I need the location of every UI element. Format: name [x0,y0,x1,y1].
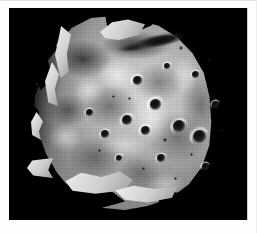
crater-1 [133,76,142,85]
crater-shadow-pit [212,101,219,108]
crater-shadow-pit [122,115,132,125]
crater-shadow-pit [133,76,142,85]
crater-4 [141,126,150,135]
crater-13 [202,163,209,170]
crater-8 [86,109,93,116]
space-background [9,8,247,220]
crater-shadow-pit [86,109,93,116]
crater-shadow-pit [150,99,161,110]
crater-5 [173,120,185,132]
crater-11 [212,101,219,108]
crater-shadow-pit [101,130,109,138]
crater-12 [157,154,165,162]
surface-speck-3 [128,97,131,100]
surface-speck-2 [208,59,211,62]
crater-9 [164,63,170,69]
crater-shadow-pit [202,163,209,170]
surface-speck-8 [220,129,223,132]
surface-speck-5 [190,153,193,156]
crater-2 [150,99,161,110]
crater-7 [101,130,109,138]
crater-shadow-pit [157,154,165,162]
crater-shadow-pit [173,120,185,132]
surface-speck-7 [112,95,115,98]
surface-speck-1 [179,46,183,50]
surface-speck-6 [142,167,145,170]
crater-shadow-pit [116,155,122,161]
surface-speck-4 [163,138,167,142]
crater-shadow-pit [141,126,150,135]
crater-10 [192,71,199,78]
crater-6 [193,130,206,143]
screenshot-root [0,0,257,233]
crater-shadow-pit [164,63,170,69]
surface-speck-9 [174,177,177,180]
crater-14 [116,155,122,161]
surface-speck-10 [98,149,101,152]
crater-3 [122,115,132,125]
plate-bevel-right [247,8,248,220]
frame-edge-right [256,0,257,233]
moon-image [9,8,247,220]
crater-shadow-pit [193,130,206,143]
frame-edge-top [0,0,257,1]
crater-shadow-pit [192,71,199,78]
